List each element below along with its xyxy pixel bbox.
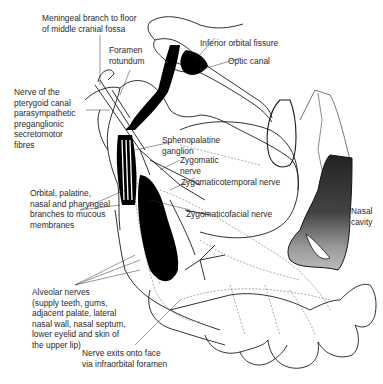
cranial-outline — [150, 17, 243, 28]
label-optic-canal: Optic canal — [228, 56, 270, 67]
optic-canal-black — [180, 50, 208, 75]
label-meningeal-branch: Meningeal branch to floor of middle cran… — [42, 13, 137, 34]
label-inferior-orbital-fissure: Inferior orbital fissure — [200, 38, 278, 49]
label-zygomaticofacial-nerve: Zygomaticofacial nerve — [186, 209, 272, 220]
label-foramen-rotundum: Foramen rotundum — [109, 45, 144, 66]
label-sphenopalatine-ganglion: Sphenopalatine ganglion — [162, 135, 220, 156]
label-zygomaticotemporal-nerve: Zygomaticotemporal nerve — [181, 177, 280, 188]
label-infraorbital-foramen: Nerve exits onto face via infraorbital f… — [82, 348, 167, 369]
maxillary-black — [138, 175, 178, 281]
label-zygomatic-nerve: Zygomatic nerve — [180, 155, 219, 176]
label-nasal-cavity: Nasal cavity — [351, 206, 372, 227]
label-alveolar-nerves: Alveolar nerves (supply teeth, gums, adj… — [32, 287, 126, 351]
label-orbital-palatine-branches: Orbital, palatine, nasal and pharyngeal … — [30, 188, 110, 230]
label-pterygoid-canal-nerve: Nerve of the pterygoid canal parasympath… — [14, 87, 75, 151]
